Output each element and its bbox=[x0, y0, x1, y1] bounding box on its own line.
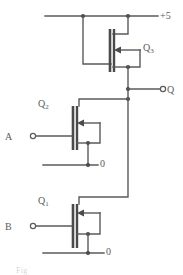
q3-label: Q3 bbox=[143, 43, 154, 53]
transistor-q2 bbox=[30, 106, 100, 165]
q2-bulk-return-wire bbox=[88, 123, 100, 143]
q2-label: Q2 bbox=[38, 99, 49, 109]
input-b-label: B bbox=[5, 222, 12, 232]
output-terminal-circle[interactable] bbox=[160, 86, 165, 91]
mid-node-group bbox=[79, 97, 130, 204]
ground-upper-junction bbox=[86, 163, 90, 167]
supply-rail-group bbox=[45, 14, 158, 18]
q2-label-sub: 2 bbox=[45, 103, 49, 111]
figure-caption: Fig bbox=[16, 266, 28, 275]
ground-upper-group bbox=[43, 163, 98, 167]
input-a-terminal-circle[interactable] bbox=[30, 133, 35, 138]
q3-drain-wire bbox=[113, 16, 128, 34]
q1-label: Q1 bbox=[38, 196, 49, 206]
q3-gate-tie-wire bbox=[83, 16, 111, 64]
ground-lower-group bbox=[43, 251, 104, 255]
output-node-group bbox=[126, 86, 166, 91]
q3-bulk-return-wire bbox=[128, 50, 140, 67]
q1-label-sub: 1 bbox=[45, 200, 49, 208]
input-a-label: A bbox=[5, 132, 12, 142]
q3-label-sub: 3 bbox=[150, 47, 154, 55]
q1-bulk-return-wire bbox=[88, 213, 100, 234]
output-label: Q bbox=[167, 85, 174, 95]
q1-drain-wire bbox=[79, 99, 128, 204]
q2-drain-wire bbox=[79, 99, 128, 106]
transistor-q1 bbox=[30, 204, 100, 253]
supply-label: +5 bbox=[160, 11, 171, 21]
input-b-terminal-circle[interactable] bbox=[30, 223, 35, 228]
transistor-q3 bbox=[83, 16, 140, 99]
ground-upper-label: 0 bbox=[100, 159, 105, 169]
ground-lower-label: 0 bbox=[106, 247, 111, 257]
ground-lower-junction bbox=[86, 251, 90, 255]
